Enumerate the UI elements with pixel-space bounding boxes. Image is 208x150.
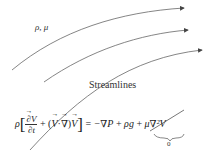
viscous-term-zero-note: 0 xyxy=(167,140,171,148)
navier-stokes-equation: ρ[∂V∂t + (V·∇)V] = −∇P + ρg + μ∇²V xyxy=(15,114,166,135)
streamline-1 xyxy=(12,8,184,70)
gravity-term: ρg xyxy=(124,118,134,129)
streamline-diagram: ρ, μ Streamlines ρ[∂V∂t + (V·∇)V] = −∇P … xyxy=(0,0,208,150)
fluid-properties-label: ρ, μ xyxy=(35,22,48,32)
pressure-gradient-term: −∇P xyxy=(94,118,114,129)
time-derivative: ∂V∂t xyxy=(25,114,37,135)
streamline-3 xyxy=(30,50,202,150)
convective-term: (V·∇)V xyxy=(48,118,77,129)
viscous-term-crossed-out: μ∇²V xyxy=(145,118,166,129)
streamlines-label: Streamlines xyxy=(89,79,136,90)
streamline-2 xyxy=(44,30,188,82)
